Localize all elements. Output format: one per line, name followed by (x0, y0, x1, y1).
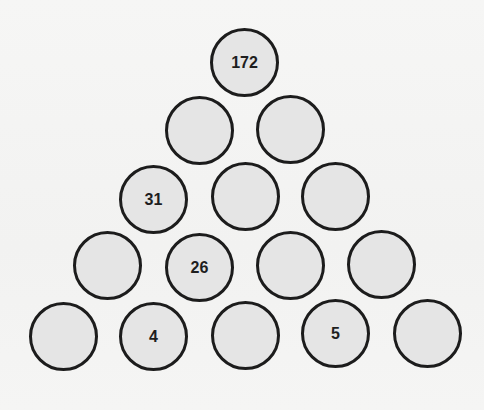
pyramid-cell-r1-c1: 172 (210, 28, 279, 97)
pyramid-cell-r5-c4: 5 (301, 299, 370, 368)
pyramid-cell-r5-c5 (393, 299, 462, 368)
pyramid-cell-r2-c2 (256, 95, 325, 164)
cell-value: 31 (145, 191, 163, 209)
cell-value: 4 (149, 328, 158, 346)
cell-value: 26 (191, 259, 209, 277)
pyramid-cell-r4-c2: 26 (165, 233, 234, 302)
pyramid-cell-r5-c3 (211, 301, 280, 370)
cell-value: 172 (231, 54, 258, 72)
pyramid-cell-r4-c3 (256, 231, 325, 300)
pyramid-cell-r3-c2 (211, 162, 280, 231)
pyramid-cell-r3-c1: 31 (119, 165, 188, 234)
pyramid-cell-r4-c4 (347, 230, 416, 299)
pyramid-cell-r5-c1 (29, 302, 98, 371)
pyramid-cell-r3-c3 (301, 162, 370, 231)
number-pyramid: 172 31 26 4 5 (0, 0, 484, 410)
cell-value: 5 (331, 325, 340, 343)
pyramid-cell-r5-c2: 4 (119, 302, 188, 371)
pyramid-cell-r4-c1 (73, 231, 142, 300)
pyramid-cell-r2-c1 (165, 96, 234, 165)
